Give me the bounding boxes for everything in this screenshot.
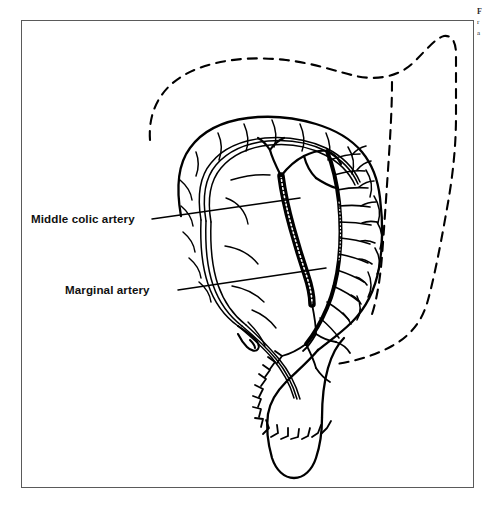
figure-root: Middle colic artery Marginal artery F r …: [0, 0, 493, 508]
cut-off-caption-fragment: F r a: [477, 6, 493, 40]
figure-frame: [21, 20, 474, 488]
caption-fragment-line-2: r: [477, 17, 493, 28]
caption-fragment-line-3: a: [477, 28, 493, 39]
label-middle-colic-artery: Middle colic artery: [31, 213, 135, 225]
label-marginal-artery: Marginal artery: [65, 284, 150, 296]
caption-fragment-line-1: F: [477, 6, 493, 17]
